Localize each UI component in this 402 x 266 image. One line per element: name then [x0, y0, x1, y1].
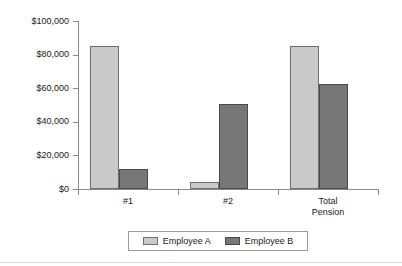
- legend-swatch-employee-a: [143, 237, 158, 245]
- chart-legend: Employee A Employee B: [128, 231, 308, 251]
- x-axis-label-total-pension: Total Pension: [283, 196, 373, 218]
- bar-employee-b-1: [119, 169, 148, 189]
- bar-chart: $100,000 $80,000 $60,000 $40,000 $20,000…: [0, 0, 402, 266]
- bottom-divider: [0, 262, 402, 263]
- x-axis-tick-mark-1: [178, 190, 179, 195]
- y-axis-tick-label-20000: $20,000: [0, 151, 69, 160]
- y-axis-tick-label-0: $0: [0, 185, 69, 194]
- legend-entry-employee-a: Employee A: [143, 236, 211, 246]
- x-axis-label-total-pension-line-2: Pension: [283, 207, 373, 218]
- x-axis-label-2-line-1: #2: [183, 196, 273, 207]
- x-axis-tick-mark-2: [278, 190, 279, 195]
- y-axis-tick-label-80000: $80,000: [0, 50, 69, 59]
- x-axis-label-2: #2: [183, 196, 273, 207]
- legend-label-employee-b: Employee B: [245, 236, 294, 246]
- bar-employee-a-1: [90, 46, 119, 189]
- y-axis-tick-label-100000: $100,000: [0, 17, 69, 26]
- x-axis-label-1: #1: [83, 196, 173, 207]
- y-axis-tick-label-40000: $40,000: [0, 117, 69, 126]
- legend-entry-employee-b: Employee B: [225, 236, 294, 246]
- x-axis-label-1-line-1: #1: [83, 196, 173, 207]
- x-axis-line: [78, 189, 379, 190]
- bar-employee-b-2: [219, 104, 248, 189]
- legend-swatch-employee-b: [225, 237, 240, 245]
- bar-employee-b-total: [319, 84, 348, 189]
- x-axis-tick-mark-start: [78, 190, 79, 195]
- x-axis-tick-mark-end: [378, 190, 379, 195]
- plot-area: [78, 21, 378, 189]
- bar-employee-a-2: [190, 182, 219, 189]
- legend-label-employee-a: Employee A: [163, 236, 211, 246]
- bar-employee-a-total: [290, 46, 319, 189]
- x-axis-label-total-pension-line-1: Total: [283, 196, 373, 207]
- y-axis-tick-label-60000: $60,000: [0, 84, 69, 93]
